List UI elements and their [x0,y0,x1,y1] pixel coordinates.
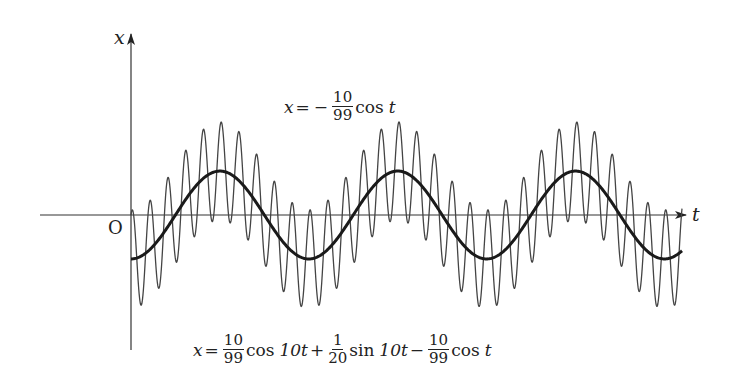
fraction-2: 1 20 [328,333,347,366]
denominator: 99 [429,350,448,366]
eq-arg-2: 10t [379,340,407,360]
eq-var: t [389,97,396,117]
fraction-3: 10 99 [428,333,449,366]
fraction-1: 10 99 [223,333,244,366]
eq-equals: = [205,340,219,360]
numerator: 1 [332,333,344,350]
fraction: 10 99 [332,90,353,123]
eq-arg-3: t [485,340,492,360]
eq-minus: − [314,97,328,117]
eq-equals: = [296,97,310,117]
denominator: 99 [333,107,352,123]
numerator: 10 [332,90,353,107]
origin-label: O [108,217,123,238]
eq-func-1: cos [246,340,274,360]
x-axis-label: x [114,26,125,48]
full-solution-equation: x = 10 99 cos 10t + 1 20 sin 10t − 10 99… [193,333,492,366]
slow-component-equation: x = − 10 99 cos t [284,90,396,123]
eq-func-3: cos [451,340,479,360]
t-axis-label: t [692,203,700,225]
denominator: 99 [224,350,243,366]
eq-lhs: x [193,340,203,360]
plot-area [0,0,730,387]
full-solution-curve [131,122,682,306]
eq-lhs: x [284,97,294,117]
numerator: 10 [223,333,244,350]
denominator: 20 [328,350,347,366]
eq-arg-1: 10t [279,340,307,360]
eq-func: cos [355,97,383,117]
eq-plus: + [310,340,324,360]
numerator: 10 [428,333,449,350]
eq-minus: − [410,340,424,360]
figure: x t O x = − 10 99 cos t x = 10 99 cos 10… [0,0,730,387]
eq-func-2: sin [349,340,374,360]
